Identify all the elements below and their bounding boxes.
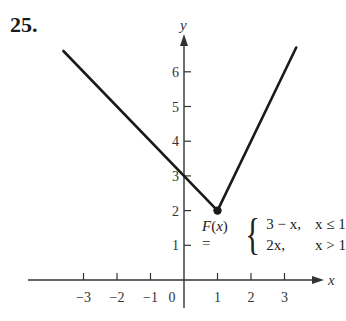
y-tick-label: 1 <box>172 238 179 253</box>
x-tick-label: −3 <box>76 290 91 305</box>
case-1-expr: 3 − x, <box>266 216 301 233</box>
series-line-2 <box>218 48 297 211</box>
x-tick-label: 0 <box>169 290 176 305</box>
case-1-condition: x ≤ 1 <box>315 216 346 233</box>
x-axis-label: x <box>327 272 335 288</box>
series-line-1 <box>63 51 217 211</box>
case-2-condition: x > 1 <box>315 237 346 254</box>
y-axis-label: y <box>178 17 187 33</box>
x-axis-arrow-icon <box>312 276 324 284</box>
x-tick-label: 1 <box>214 290 221 305</box>
x-tick-label: −2 <box>110 290 125 305</box>
graph: xy−3−2−10123123456 <box>0 0 346 321</box>
piecewise-formula: F(x) = { 3 − x, x ≤ 1 2x, x > 1 <box>202 213 346 257</box>
x-tick-label: −1 <box>143 290 158 305</box>
formula-cases: 3 − x, x ≤ 1 2x, x > 1 <box>266 216 346 254</box>
y-tick-label: 2 <box>172 204 179 219</box>
formula-brace: { <box>245 213 260 257</box>
y-tick-label: 5 <box>172 100 179 115</box>
x-tick-label: 2 <box>248 290 255 305</box>
y-tick-label: 6 <box>172 65 179 80</box>
y-axis-arrow-icon <box>180 34 188 46</box>
x-tick-label: 3 <box>281 290 288 305</box>
case-2-expr: 2x, <box>266 237 301 254</box>
formula-lhs: F(x) = <box>202 218 238 252</box>
y-tick-label: 4 <box>172 134 179 149</box>
